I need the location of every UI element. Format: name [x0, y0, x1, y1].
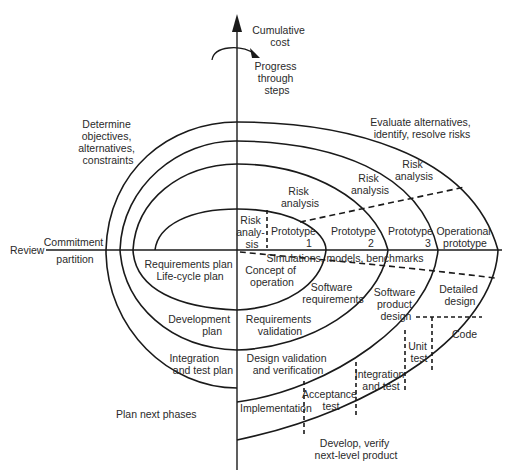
risk-analysis-4: Risk analysis — [395, 158, 433, 182]
progress-label: Progress through steps — [255, 60, 300, 96]
develop-labels: Concept of operation Software requiremen… — [240, 264, 481, 414]
quadrant-top-right-label: Evaluate alternatives, identify, resolve… — [370, 116, 473, 140]
integration-and-test: Integration and test — [355, 368, 408, 392]
plan-labels: Requirements plan Life-cycle plan Develo… — [144, 258, 235, 376]
quadrant-bottom-right-label: Develop, verify next-level product — [315, 437, 398, 461]
risk-analysis-2: Risk analysis — [281, 185, 319, 209]
quadrant-bottom-left-label: Plan next phases — [116, 408, 197, 420]
simulations-label: Simulations, models, benchmarks — [267, 252, 424, 264]
spiral-model-diagram: Cumulative cost Progress through steps R… — [0, 0, 512, 471]
risk-analysis-1: Risk analy- sis — [236, 214, 268, 250]
review-label: Review — [10, 244, 45, 256]
quadrant-top-left-label: Determine objectives, alternatives, cons… — [78, 118, 138, 166]
development-plan: Development plan — [168, 313, 233, 337]
cumulative-cost-label: Cumulative cost — [252, 24, 307, 48]
detailed-design: Detailed design — [439, 283, 480, 307]
software-product-design: Software product design — [374, 286, 418, 322]
code-label: Code — [452, 328, 477, 340]
requirements-plan: Requirements plan Life-cycle plan — [144, 258, 235, 282]
prototype-1: Prototype 1 — [271, 225, 319, 249]
prototype-labels: Prototype 1 Prototype 2 Prototype 3 Oper… — [271, 225, 494, 249]
prototype-3: Prototype 3 — [388, 225, 436, 249]
arrow-up-icon — [232, 14, 242, 32]
concept-of-operation: Concept of operation — [245, 264, 299, 288]
unit-test: Unit test — [408, 340, 430, 364]
integration-test-plan: Integration and test plan — [169, 352, 233, 376]
rotation-arrow-head-icon — [250, 48, 260, 58]
software-requirements: Software requirements — [302, 281, 363, 305]
requirements-validation: Requirements validation — [246, 313, 314, 337]
implementation-label: Implementation — [240, 402, 312, 414]
prototype-2: Prototype 2 — [331, 225, 379, 249]
rotation-arrow — [212, 48, 255, 60]
operational-prototype: Operational prototype — [436, 225, 493, 249]
design-validation: Design validation and verification — [247, 352, 330, 376]
